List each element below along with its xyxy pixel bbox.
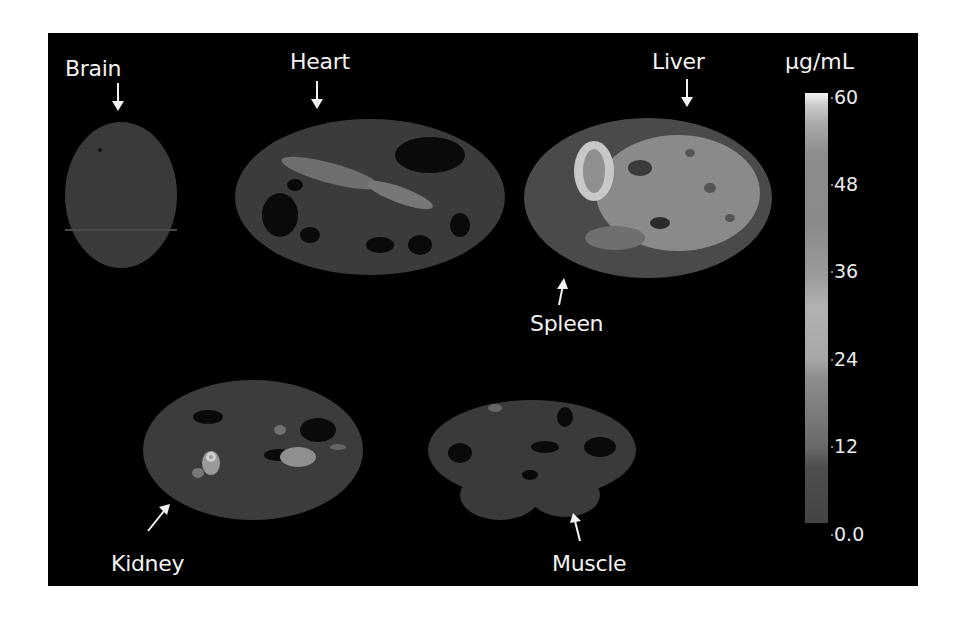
colorbar-tick: 60	[834, 88, 858, 107]
colorbar-tick: 24	[834, 350, 858, 369]
brain-section	[62, 120, 180, 270]
label-muscle: Muscle	[552, 553, 626, 575]
tick-mark	[831, 359, 833, 361]
colorbar-unit: µg/mL	[785, 51, 854, 73]
kidney-section	[138, 375, 368, 525]
label-liver: Liver	[652, 51, 704, 73]
colorbar-tick: 0.0	[834, 525, 864, 544]
liver-spleen-section	[520, 113, 775, 283]
label-kidney: Kidney	[111, 553, 184, 575]
colorbar	[805, 93, 828, 523]
figure-panel: Brain Heart Liver	[48, 33, 918, 586]
colorbar-tick: 12	[834, 437, 858, 456]
arrow-up-icon	[553, 277, 569, 307]
heart-section	[230, 115, 510, 280]
colorbar-tick: 48	[834, 175, 858, 194]
tick-mark	[831, 446, 833, 448]
tick-mark	[831, 97, 833, 99]
arrow-down-icon	[309, 81, 325, 111]
arrow-up-right-icon	[146, 503, 172, 533]
arrow-up-icon	[570, 513, 586, 543]
arrow-down-icon	[679, 79, 695, 109]
arrow-down-icon	[110, 83, 126, 113]
label-brain: Brain	[65, 58, 121, 80]
label-spleen: Spleen	[530, 313, 603, 335]
tick-mark	[831, 184, 833, 186]
label-heart: Heart	[290, 51, 350, 73]
muscle-section	[425, 395, 640, 525]
colorbar-tick: 36	[834, 262, 858, 281]
tick-mark	[831, 271, 833, 273]
tick-mark	[831, 534, 833, 536]
